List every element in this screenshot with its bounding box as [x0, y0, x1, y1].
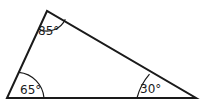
triangle-diagram: 85° 65° 30° — [0, 0, 204, 109]
angle-label-top: 85° — [38, 24, 59, 38]
angle-label-bottom-right: 30° — [140, 82, 161, 96]
angle-label-bottom-left: 65° — [20, 83, 41, 97]
